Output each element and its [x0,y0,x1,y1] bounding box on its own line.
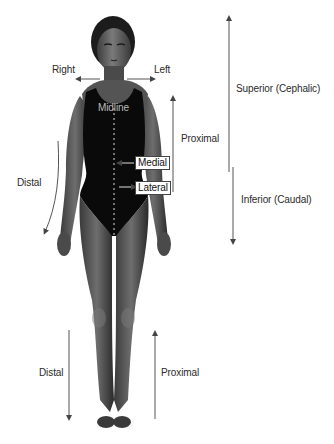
label-left: Left [154,64,170,76]
label-superior: Superior (Cephalic) [236,83,320,95]
label-distal-leg: Distal [39,367,63,379]
label-proximal-leg: Proximal [161,367,199,379]
head [91,16,135,82]
label-medial: Medial [135,156,170,170]
label-midline: Midline [98,102,129,114]
distal-arm-arrow-icon [45,141,59,232]
label-distal-arm: Distal [17,177,41,189]
label-lateral: Lateral [135,181,171,195]
label-proximal-arm: Proximal [181,133,219,145]
anatomy-diagram: Right Left Midline Medial Lateral Proxim… [0,0,334,444]
label-inferior: Inferior (Caudal) [241,194,312,206]
label-right: Right [52,64,75,76]
